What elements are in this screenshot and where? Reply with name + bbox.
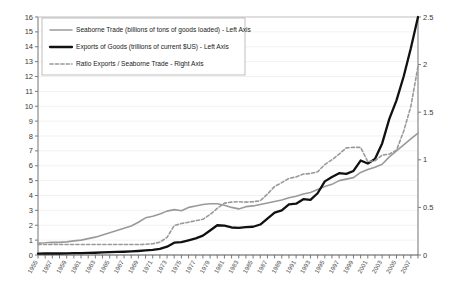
left-axis-tick-label: 12 [25, 72, 33, 81]
x-axis-tick-label: 1955 [26, 259, 39, 275]
x-axis-tick-label: 1973 [155, 259, 168, 275]
x-axis-tick-label: 1981 [212, 259, 225, 275]
left-axis-tick-label: 10 [25, 102, 33, 111]
left-axis-tick-label: 7 [29, 146, 33, 155]
left-axis-tick-label: 6 [29, 161, 33, 170]
left-axis-tick-label: 5 [29, 176, 33, 185]
x-axis-tick-label: 1989 [270, 259, 283, 275]
legend-label-1: Seaborne Trade (billions of tons of good… [76, 26, 252, 34]
x-axis-tick-label: 1969 [126, 259, 139, 275]
x-axis-tick-label: 1965 [98, 259, 111, 275]
x-axis-tick-label: 1975 [169, 259, 182, 275]
x-axis-tick-label: 1995 [313, 259, 326, 275]
x-axis-tick-label: 2007 [399, 259, 412, 275]
left-axis-tick-label: 4 [29, 191, 33, 200]
line-chart: 01234567891011121314151600.511.522.51955… [0, 0, 462, 300]
right-axis-tick-label: 0.5 [423, 203, 433, 212]
right-axis-tick-label: 1 [423, 155, 427, 164]
x-axis-tick-label: 2005 [384, 259, 397, 275]
x-axis-tick-label: 2001 [356, 259, 369, 275]
x-axis-tick-label: 1997 [327, 259, 340, 275]
right-axis-tick-label: 0 [423, 251, 427, 260]
x-axis-tick-label: 1957 [40, 259, 53, 275]
x-axis-tick-label: 1991 [284, 259, 297, 275]
left-axis-tick-label: 14 [25, 42, 33, 51]
x-axis-tick-label: 1961 [69, 259, 82, 275]
x-axis-tick-label: 1983 [227, 259, 240, 275]
x-axis-tick-label: 1987 [255, 259, 268, 275]
series-line-3 [38, 67, 418, 245]
left-axis-tick-label: 0 [29, 251, 33, 260]
chart-container: 01234567891011121314151600.511.522.51955… [0, 0, 462, 300]
x-axis-tick-label: 1993 [298, 259, 311, 275]
legend: Seaborne Trade (billions of tons of good… [42, 18, 252, 75]
x-axis-tick-label: 1959 [55, 259, 68, 275]
left-axis-tick-label: 13 [25, 57, 33, 66]
x-axis-tick-label: 1999 [341, 259, 354, 275]
x-axis-tick-label: 1971 [141, 259, 154, 275]
left-axis-tick-label: 15 [25, 27, 33, 36]
legend-label-2: Exports of Goods (trillions of current $… [76, 43, 230, 51]
left-axis-tick-label: 16 [25, 13, 33, 22]
left-axis-tick-label: 8 [29, 132, 33, 141]
left-axis-tick-label: 9 [29, 117, 33, 126]
legend-label-3: Ratio Exports / Seaborne Trade - Right A… [76, 60, 204, 68]
left-axis-tick-label: 11 [25, 87, 33, 96]
right-axis-ticks: 00.511.522.5 [418, 13, 433, 260]
x-axis-tick-label: 1985 [241, 259, 254, 275]
x-axis-ticks: 1955195719591961196319651967196919711973… [26, 255, 418, 274]
left-axis-tick-label: 2 [29, 221, 33, 230]
x-axis-tick-label: 1967 [112, 259, 125, 275]
right-axis-tick-label: 2.5 [423, 13, 433, 22]
right-axis-tick-label: 2 [423, 60, 427, 69]
left-axis-tick-label: 3 [29, 206, 33, 215]
left-axis-ticks: 012345678910111213141516 [25, 13, 38, 260]
x-axis-tick-label: 1979 [198, 259, 211, 275]
x-axis-tick-label: 1977 [184, 259, 197, 275]
x-axis-tick-label: 1963 [83, 259, 96, 275]
x-axis-tick-label: 2003 [370, 259, 383, 275]
left-axis-tick-label: 1 [29, 236, 33, 245]
right-axis-tick-label: 1.5 [423, 108, 433, 117]
